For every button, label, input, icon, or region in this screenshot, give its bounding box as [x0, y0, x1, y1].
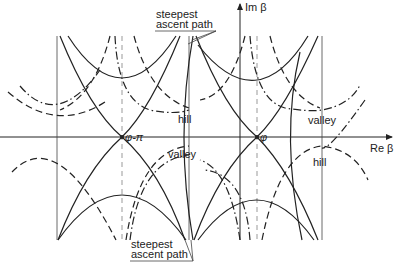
imaginary-axis-label: Im β: [245, 1, 267, 13]
svg-text:ascent path: ascent path: [131, 248, 188, 260]
vertical-guides: [57, 36, 322, 240]
region-valley-label-right: valley: [308, 114, 337, 126]
real-axis-label: Re β: [370, 142, 393, 154]
annotation-top: steepest ascent path: [155, 8, 216, 44]
svg-text:ascent path: ascent path: [156, 18, 213, 30]
saddle-label-phi: φ: [260, 131, 267, 143]
saddle-phi-minus-pi: [120, 135, 124, 139]
region-hill-label-right: hill: [313, 156, 326, 168]
region-valley-label: valley: [168, 148, 197, 160]
saddle-label-phi-minus-pi: φ-π: [125, 131, 144, 143]
annotation-bottom: steepest ascent path: [130, 238, 193, 261]
steepest-descent-diagram: φ-π φ Re β Im β hill valley valley hill …: [0, 0, 398, 262]
solid-level-curves: [58, 36, 314, 240]
region-hill-label: hill: [178, 113, 191, 125]
saddle-phi: [255, 135, 259, 139]
